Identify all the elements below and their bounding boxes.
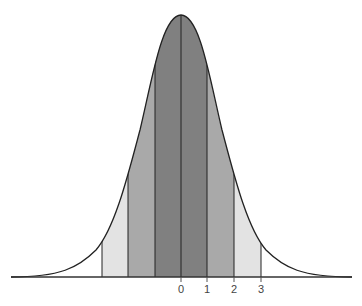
axis-label-0: 0 xyxy=(178,283,184,295)
axis-label-2: 2 xyxy=(231,283,237,295)
band-0-1 xyxy=(181,0,207,277)
axis-label-1: 1 xyxy=(204,283,210,295)
band-neg2-neg1 xyxy=(128,0,155,277)
bell-curve-diagram: 0 1 2 3 xyxy=(0,0,362,306)
axis-label-3: 3 xyxy=(258,283,264,295)
band-neg1-0 xyxy=(155,0,181,277)
band-1-2 xyxy=(207,0,234,277)
